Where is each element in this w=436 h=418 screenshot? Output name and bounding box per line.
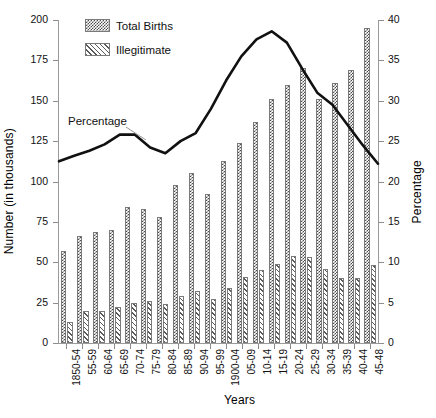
y-tickmark-left-50 [53,262,58,263]
x-tickmark-16 [322,344,323,349]
x-tickmark-10 [226,344,227,349]
x-tickmark-4 [130,344,131,349]
x-tickmark-9 [210,344,211,349]
x-tick-label-4: 70-74 [135,349,146,375]
y-tick-right-0: 0 [388,336,422,348]
x-tickmark-1 [82,344,83,349]
x-tickmark-3 [114,344,115,349]
y-tick-right-40: 40 [388,13,422,25]
y-tick-left-25: 25 [14,296,48,308]
y-tick-left-175: 175 [14,53,48,65]
y-tick-left-0: 0 [14,336,48,348]
x-tick-label-10: 1900-04 [230,349,241,386]
y-tick-right-5: 5 [388,296,422,308]
x-tickmark-11 [242,344,243,349]
y-tickmark-left-150 [53,101,58,102]
y-tickmark-right-30 [379,101,384,102]
y-tick-right-30: 30 [388,94,422,106]
x-tick-label-1: 55-59 [87,349,98,375]
y-tick-right-15: 15 [388,215,422,227]
y-tick-right-20: 20 [388,175,422,187]
y-tickmark-right-5 [379,303,384,304]
y-tickmark-right-15 [379,222,384,223]
legend-swatch-total-births [85,19,110,32]
x-tickmark-18 [354,344,355,349]
x-tick-label-17: 35-39 [342,349,353,375]
x-tickmark-7 [178,344,179,349]
x-tick-label-8: 90-94 [199,349,210,375]
x-tick-label-7: 85-89 [183,349,194,375]
x-tickmark-13 [274,344,275,349]
percentage-line-svg [59,20,378,343]
x-tick-label-11: 05-09 [246,349,257,375]
legend-item-illegitimate: Illegitimate [85,43,171,56]
y-tick-right-10: 10 [388,255,422,267]
x-tickmark-6 [162,344,163,349]
legend-label-total-births: Total Births [116,20,173,32]
y-tickmark-right-40 [379,20,384,21]
x-tickmark-12 [258,344,259,349]
y-tickmark-right-10 [379,262,384,263]
percentage-annotation-label: Percentage [68,115,127,127]
y-tick-left-100: 100 [14,175,48,187]
x-tick-label-19: 45-48 [374,349,385,375]
y-tickmark-left-0 [53,343,58,344]
x-tick-label-0: 1850-54 [71,349,82,386]
x-tickmark-14 [290,344,291,349]
y-tick-right-25: 25 [388,134,422,146]
y-axis-left-title: Number (in thousands) [2,128,16,254]
y-tickmark-left-25 [53,303,58,304]
y-tickmark-left-125 [53,141,58,142]
y-tick-left-125: 125 [14,134,48,146]
x-tick-label-15: 25-29 [310,349,321,375]
x-tick-label-9: 95-99 [215,349,226,375]
y-tick-left-200: 200 [14,13,48,25]
x-axis-line [58,343,379,344]
x-tick-label-3: 65-69 [119,349,130,375]
y-tickmark-left-200 [53,20,58,21]
x-tick-label-13: 15-19 [278,349,289,375]
y-tickmark-right-35 [379,60,384,61]
x-tick-label-12: 10-14 [262,349,273,375]
x-tickmark-15 [306,344,307,349]
x-tick-label-16: 30-34 [326,349,337,375]
y-tickmark-right-0 [379,343,384,344]
y-tick-left-75: 75 [14,215,48,227]
y-tick-right-35: 35 [388,53,422,65]
chart-container: Number (in thousands) Percentage Years 0… [0,0,436,418]
legend-label-illegitimate: Illegitimate [116,44,171,56]
y-tickmark-left-100 [53,182,58,183]
x-tickmark-5 [146,344,147,349]
y-tickmark-right-25 [379,141,384,142]
x-tick-label-5: 75-79 [151,349,162,375]
y-tickmark-left-75 [53,222,58,223]
x-tick-label-2: 60-64 [103,349,114,375]
x-tickmark-2 [98,344,99,349]
plot-area [59,20,378,343]
x-tick-label-14: 20-24 [294,349,305,375]
y-tick-left-150: 150 [14,94,48,106]
y-axis-right-title: Percentage [410,160,424,223]
x-axis-title: Years [224,393,255,407]
y-tickmark-left-175 [53,60,58,61]
x-tickmark-17 [338,344,339,349]
y-tick-left-50: 50 [14,255,48,267]
x-tickmark-8 [194,344,195,349]
x-tick-label-18: 40-44 [358,349,369,375]
y-tickmark-right-20 [379,182,384,183]
x-tick-label-6: 80-84 [167,349,178,375]
x-tickmark-0 [66,344,67,349]
legend-swatch-illegitimate [85,43,110,56]
x-tickmark-19 [370,344,371,349]
legend-item-total-births: Total Births [85,19,173,32]
